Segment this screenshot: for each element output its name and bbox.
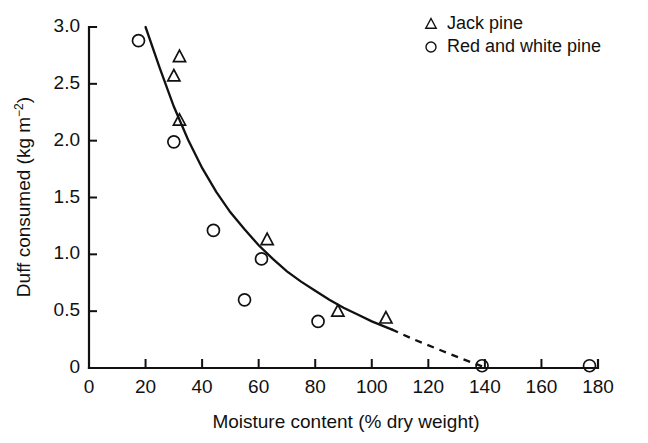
x-axis-line	[89, 360, 598, 368]
data-point-circle	[584, 360, 596, 372]
data-point-triangle	[168, 69, 180, 80]
y-tick-label: 3.0	[54, 15, 80, 36]
data-point-circle	[239, 294, 251, 306]
fit-curve-solid	[146, 27, 392, 329]
legend-entry-jack-pine: Jack pine	[426, 13, 523, 33]
x-tick-label: 0	[84, 376, 95, 397]
y-axis-title-superscript: −2	[12, 103, 26, 117]
chart-legend: Jack pine Red and white pine	[426, 13, 601, 56]
x-axis-title: Moisture content (% dry weight)	[212, 411, 479, 432]
x-tick-label: 180	[582, 376, 614, 397]
legend-entry-red-and-white-pine: Red and white pine	[426, 36, 601, 56]
x-tick-label: 120	[412, 376, 444, 397]
fit-curve-dashed	[392, 329, 482, 366]
x-tick-label: 140	[469, 376, 501, 397]
data-point-circle	[255, 253, 267, 265]
y-axis-title-tail: )	[13, 97, 34, 103]
data-point-triangle	[380, 312, 392, 323]
chart-canvas: 00.51.01.52.02.53.0 02040608010012014016…	[0, 0, 648, 443]
series-red-and-white-pine-markers	[132, 35, 595, 372]
data-point-triangle	[261, 233, 273, 244]
y-tick-label: 0	[69, 356, 80, 377]
x-axis-tick-labels: 020406080100120140160180	[84, 376, 614, 397]
x-tick-label: 80	[305, 376, 326, 397]
legend-label-red-and-white-pine: Red and white pine	[447, 36, 601, 56]
y-tick-label: 2.5	[54, 72, 80, 93]
duff-consumption-scatter-chart: 00.51.01.52.02.53.0 02040608010012014016…	[0, 0, 648, 443]
legend-label-jack-pine: Jack pine	[447, 13, 523, 33]
x-tick-label: 60	[248, 376, 269, 397]
y-axis-title: Duff consumed (kg m−2)	[12, 97, 34, 297]
x-tick-label: 40	[192, 376, 213, 397]
x-tick-label: 20	[135, 376, 156, 397]
y-axis-title-main: Duff consumed (kg m	[13, 117, 34, 297]
data-point-circle	[168, 136, 180, 148]
data-point-triangle	[173, 50, 185, 61]
y-tick-label: 2.0	[54, 129, 80, 150]
y-tick-label: 0.5	[54, 299, 80, 320]
series-jack-pine-markers	[168, 50, 392, 323]
y-tick-label: 1.5	[54, 186, 80, 207]
circle-marker-icon	[426, 42, 436, 52]
x-tick-label: 160	[526, 376, 558, 397]
y-axis-tick-labels: 00.51.01.52.02.53.0	[54, 15, 80, 377]
y-tick-label: 1.0	[54, 242, 80, 263]
y-axis-ticks	[89, 27, 97, 311]
data-point-circle	[132, 35, 144, 47]
x-tick-label: 100	[356, 376, 388, 397]
data-point-circle	[207, 224, 219, 236]
data-point-circle	[312, 315, 324, 327]
triangle-marker-icon	[426, 19, 436, 29]
